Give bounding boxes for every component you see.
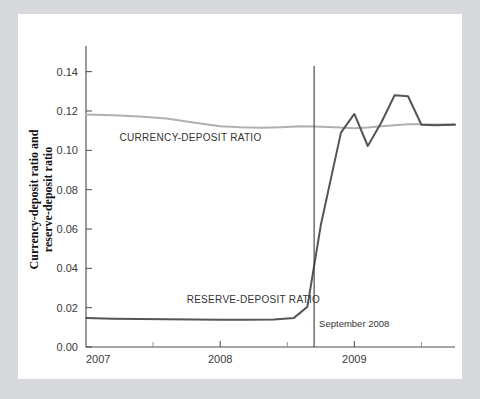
series-line: [86, 95, 455, 320]
chart-area: 0.000.020.040.060.080.100.120.14 2007200…: [18, 14, 462, 379]
y-tick-label: 0.02: [57, 302, 78, 314]
x-tick-label: 2008: [208, 353, 232, 365]
series-inline-label: RESERVE-DEPOSIT RATIO: [187, 294, 321, 305]
y-tick-label: 0.06: [57, 223, 78, 235]
y-tick-label: 0.00: [57, 341, 78, 353]
chart-svg: 0.000.020.040.060.080.100.120.14 2007200…: [18, 14, 462, 379]
figure-root: 0.000.020.040.060.080.100.120.14 2007200…: [0, 0, 480, 399]
chart-axis-titles: YearCurrency-deposit ratio andreserve-de…: [27, 129, 455, 379]
x-tick-label: 2007: [86, 353, 110, 365]
y-tick-label: 0.10: [57, 144, 78, 156]
x-axis: 200720082009: [86, 341, 455, 365]
y-tick-label: 0.14: [57, 66, 78, 78]
y-tick-label: 0.12: [57, 105, 78, 117]
y-tick-label: 0.08: [57, 184, 78, 196]
y-axis: 0.000.020.040.060.080.100.120.14: [57, 46, 92, 353]
x-tick-label: 2009: [342, 353, 366, 365]
figure-card: 0.000.020.040.060.080.100.120.14 2007200…: [18, 14, 462, 379]
series-inline-label: CURRENCY-DEPOSIT RATIO: [120, 132, 262, 143]
y-tick-label: 0.04: [57, 262, 78, 274]
series-lines: CURRENCY-DEPOSIT RATIORESERVE-DEPOSIT RA…: [86, 95, 455, 320]
september-2008-label: September 2008: [319, 318, 389, 329]
x-axis-title: Year: [431, 376, 456, 379]
series-line: [86, 115, 455, 129]
y-axis-title: Currency-deposit ratio andreserve-deposi…: [27, 129, 55, 269]
